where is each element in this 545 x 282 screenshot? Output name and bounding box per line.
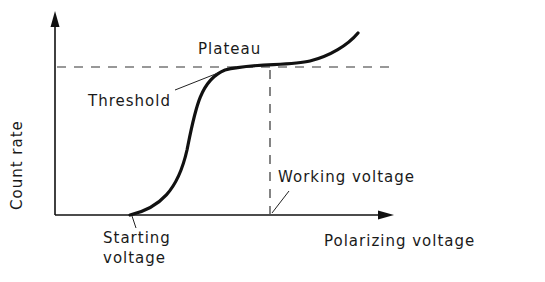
threshold-label: Threshold	[88, 92, 171, 110]
characteristic-curve	[130, 33, 358, 215]
x-axis-label: Polarizing voltage	[324, 232, 475, 250]
starting-voltage-label-line2: voltage	[103, 249, 166, 267]
starting-voltage-leader-line	[132, 216, 136, 228]
starting-voltage-label-line1: Starting	[103, 229, 171, 247]
plateau-label: Plateau	[198, 40, 261, 58]
working-voltage-leader-line	[272, 191, 289, 213]
y-axis-arrow-icon	[51, 11, 60, 27]
x-axis-arrow-icon	[378, 211, 394, 220]
y-axis-label: Count rate	[8, 120, 26, 210]
working-voltage-label: Working voltage	[278, 168, 415, 186]
threshold-leader-line	[175, 73, 218, 90]
